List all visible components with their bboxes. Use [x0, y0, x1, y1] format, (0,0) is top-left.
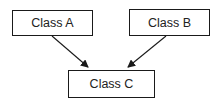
node-class-c[interactable]: Class C [68, 70, 155, 98]
edge-a-to-c-arrow [52, 36, 88, 67]
node-label: Class A [31, 16, 73, 30]
diagram-canvas: Class A Class B Class C [0, 0, 221, 102]
node-class-b[interactable]: Class B [129, 9, 210, 36]
edge-b-to-c-arrow [128, 36, 166, 67]
node-label: Class C [90, 77, 134, 91]
node-class-a[interactable]: Class A [12, 10, 93, 36]
node-label: Class B [148, 16, 191, 30]
